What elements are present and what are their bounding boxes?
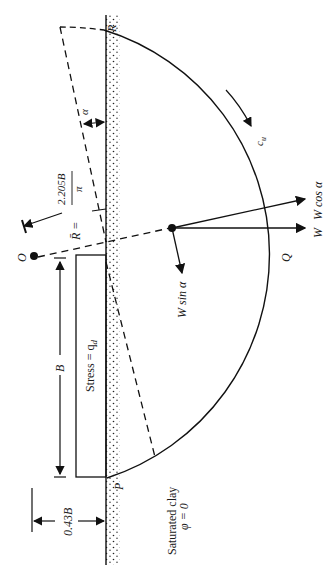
W-cos-vector (172, 199, 305, 228)
arc-dashed-extension (60, 27, 104, 30)
failure-arc (104, 30, 269, 478)
upper-radius-line (106, 199, 305, 210)
W-cos-backline (92, 211, 172, 228)
label-alpha: α (78, 109, 90, 115)
label-B-text: B (53, 364, 67, 372)
label-W: W (311, 227, 325, 238)
label-R-denominator: π (72, 186, 84, 192)
label-W-sin: W sin α (175, 281, 189, 318)
alpha-arrow (84, 122, 104, 124)
label-phi: φ = 0 (177, 503, 191, 530)
label-cu: cu (253, 137, 268, 146)
label-O: O (15, 253, 29, 262)
center-point-O (30, 252, 38, 260)
label-offset: 0.43B (61, 507, 75, 536)
label-R-numerator: 2.205B (55, 173, 67, 205)
label-R: R (105, 24, 119, 33)
label-P: P (112, 482, 126, 491)
label-Rbar: R̄ = (69, 222, 83, 241)
W-sin-vector (172, 228, 182, 273)
rbar-dimension (24, 213, 62, 226)
bearing-capacity-diagram: R P Q O α cu W cos α W W sin α R̄ = 2.20… (0, 0, 332, 572)
label-stress: Stress = qd (83, 340, 99, 392)
label-Q: Q (279, 253, 293, 262)
cu-arrow (226, 90, 251, 126)
rbar-end-tick (22, 220, 26, 233)
label-W-cos: W cos α (311, 181, 325, 220)
